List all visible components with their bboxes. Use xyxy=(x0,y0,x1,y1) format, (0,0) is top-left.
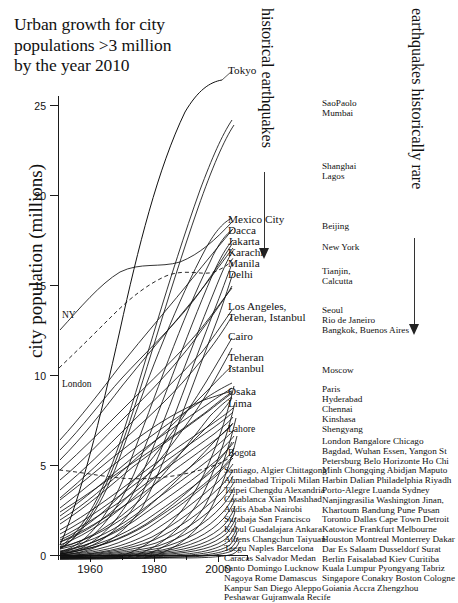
historical-earthquakes-arrow-shaft xyxy=(264,172,265,250)
right-label-moscow: Moscow xyxy=(322,366,354,376)
right-label-lagos: Lagos xyxy=(322,172,344,182)
curve-label-tokyo: Tokyo xyxy=(228,64,256,76)
curve-label-teheran-istanbul: Teheran, Istanbul xyxy=(228,311,306,323)
curve-label-bogota: Bogota xyxy=(228,448,256,458)
curve-label-lima: Lima xyxy=(228,397,252,409)
curve-label-istanbul: Istanbul xyxy=(228,362,264,374)
right-label-new-york: New York xyxy=(322,243,359,253)
annotation-earthquakes-rare: earthquakes historically rare xyxy=(408,8,426,189)
curve-label-osaka: Osaka xyxy=(228,385,256,397)
right-label-bangkok-buenos-aires: Bangkok, Buenos Aires xyxy=(322,326,409,336)
right-label-dense-block: London Bangalore Chicago Bagdad, Wuhan E… xyxy=(322,437,456,594)
right-label-calcutta: Calcutta xyxy=(322,277,353,287)
curve-label-dense-block-left: Santiago, Algier Chittagong Ahmedabad Tr… xyxy=(224,466,332,603)
earthquakes-rare-arrow-head xyxy=(409,324,419,335)
right-label-shengyang: Shengyang xyxy=(322,425,363,435)
earthquakes-rare-arrow-shaft xyxy=(414,238,415,326)
curve-label-lahore: Lahore xyxy=(228,424,255,434)
curve-label-cairo: Cairo xyxy=(228,330,253,342)
label-london: London xyxy=(62,379,92,389)
right-label-beijing: Beijing xyxy=(322,222,349,232)
curve-label-delhi: Delhi xyxy=(228,268,253,280)
annotation-historical-earthquakes: historical earthquakes xyxy=(258,8,276,148)
right-label-mumbai: Mumbai xyxy=(322,109,353,119)
label-ny: NY xyxy=(62,310,76,320)
